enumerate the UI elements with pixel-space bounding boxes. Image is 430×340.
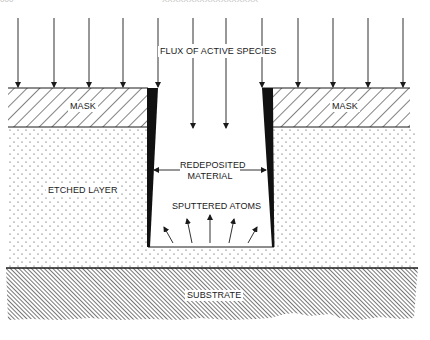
redeposited-label-line1: REDEPOSITED bbox=[180, 160, 240, 171]
flux-label: FLUX OF ACTIVE SPECIES bbox=[158, 46, 278, 57]
sputtered-atoms-label: SPUTTERED ATOMS bbox=[172, 201, 261, 212]
redeposited-label-line2: MATERIAL bbox=[180, 171, 240, 182]
mask-right-label: MASK bbox=[330, 101, 360, 112]
page-number: 000 bbox=[0, 0, 13, 4]
mask-left-label: MASK bbox=[68, 101, 98, 112]
substrate-label: SUBSTRATE bbox=[185, 290, 243, 301]
redeposited-label: REDEPOSITED MATERIAL bbox=[180, 160, 240, 182]
running-title: XXXXXXXXXXXXXXXXXX bbox=[162, 0, 258, 4]
etch-diagram: 000 XXXXXXXXXXXXXXXXXX bbox=[0, 0, 430, 340]
etched-layer-label: ETCHED LAYER bbox=[46, 185, 120, 196]
